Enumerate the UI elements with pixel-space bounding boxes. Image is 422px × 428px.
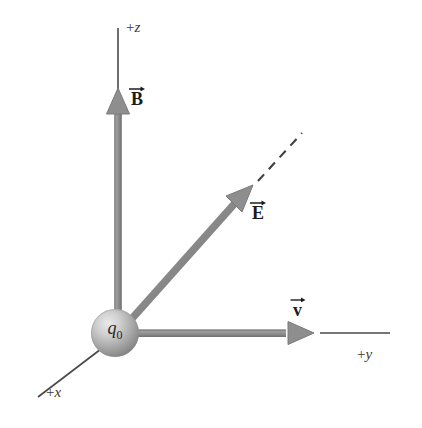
b-vector-overarrow-icon <box>131 85 143 91</box>
velocity-label: v <box>293 296 302 319</box>
e-field-symbol: E <box>252 204 264 222</box>
e-field-label: E <box>252 199 264 222</box>
axis-label-x: +x <box>46 384 61 401</box>
axis-label-z: +z <box>126 19 140 36</box>
b-field-symbol: B <box>131 90 143 108</box>
e-field-vector <box>128 185 253 323</box>
axis-lines <box>38 28 390 397</box>
axis-label-z-var: z <box>134 19 140 35</box>
axis-label-y: +y <box>357 346 372 363</box>
b-field-label: B <box>131 85 143 108</box>
v-vector-overarrow-icon <box>293 296 302 302</box>
b-field-vector <box>107 88 130 332</box>
charge-subscript: 0 <box>117 328 123 342</box>
e-vector-overarrow-icon <box>252 199 264 205</box>
diagram-canvas <box>0 0 422 428</box>
charge-symbol: q <box>108 318 117 338</box>
e-field-dashed-extension <box>258 133 302 181</box>
velocity-vector <box>130 322 314 345</box>
axis-label-x-var: x <box>54 384 61 400</box>
charge-label: q0 <box>95 318 135 343</box>
physics-vector-diagram: q0 +z +y +x B E <box>0 0 422 428</box>
axis-label-y-var: y <box>365 346 372 362</box>
velocity-symbol: v <box>293 301 302 319</box>
